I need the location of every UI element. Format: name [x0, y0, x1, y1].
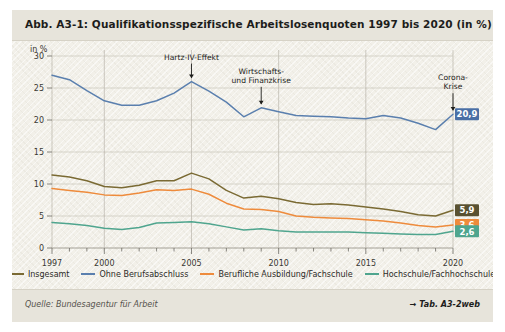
end-value-text: 20,9 [457, 109, 478, 119]
legend-label: Ohne Berufsabschluss [99, 270, 188, 279]
legend-swatch-icon [12, 273, 24, 275]
annotation-label: und Finanzkrise [232, 76, 292, 85]
legend-item-berufliche-ausbildung-fachschule[interactable]: Berufliche Ausbildung/Fachschule [200, 270, 352, 279]
end-value-label: 2,6 [455, 225, 479, 237]
legend-item-insgesamt[interactable]: Insgesamt [12, 270, 69, 279]
annotation-arrow-icon [451, 107, 456, 111]
figure-panel: Abb. A3-1: Qualifikationsspezifische Arb… [12, 10, 493, 322]
annotation-label: Corona- [438, 73, 468, 82]
source-note: Quelle: Bundesagentur für Arbeit [25, 300, 158, 309]
end-value-label: 5,9 [455, 204, 479, 216]
end-value-text: 2,6 [459, 227, 474, 237]
y-axis-unit-label: in % [30, 45, 48, 54]
chart-annotations: Hartz-IV-EffektWirtschafts-und Finanzkri… [164, 53, 468, 111]
end-value-label: 20,9 [455, 108, 479, 120]
series-line-berufliche-ausbildung-fachschule [52, 188, 453, 226]
y-tick-label: 15 [34, 148, 44, 157]
end-value-text: 5,9 [459, 205, 474, 215]
data-series-lines [52, 75, 453, 234]
legend-label: Hochschule/Fachhochschule [383, 270, 493, 279]
annotation-arrow-icon [189, 74, 194, 78]
annotation-label: Krise [444, 82, 463, 91]
chart-legend: InsgesamtOhne BerufsabschlussBerufliche … [12, 266, 493, 282]
legend-swatch-icon [81, 273, 95, 275]
table-reference-link[interactable]: → Tab. A3-2web [410, 300, 480, 309]
annotation-label: Wirtschafts- [239, 67, 285, 76]
legend-swatch-icon [200, 273, 214, 275]
page-title: Abb. A3-1: Qualifikationsspezifische Arb… [25, 18, 492, 30]
legend-item-hochschule-fachhochschule[interactable]: Hochschule/Fachhochschule [365, 270, 493, 279]
figure-footer: Quelle: Bundesagentur für Arbeit → Tab. … [12, 289, 493, 322]
end-value-labels: 20,95,93,62,6 [455, 108, 479, 237]
legend-label: Berufliche Ausbildung/Fachschule [218, 270, 352, 279]
y-tick-label: 25 [34, 84, 44, 93]
annotation-arrow-icon [259, 101, 264, 105]
x-axis-ticks: 199720002005201020152020 [42, 248, 463, 268]
legend-swatch-icon [365, 273, 379, 275]
y-tick-label: 5 [39, 212, 44, 221]
legend-label: Insgesamt [28, 270, 70, 279]
line-chart: 051015202530 199720002005201020152020 in… [12, 40, 493, 272]
y-tick-label: 20 [34, 116, 44, 125]
chart-plot-area: 051015202530 199720002005201020152020 in… [12, 40, 493, 272]
series-line-hochschule-fachhochschule [52, 222, 453, 235]
figure-title-bar: Abb. A3-1: Qualifikationsspezifische Arb… [12, 10, 493, 41]
y-tick-label: 10 [34, 180, 44, 189]
annotation-label: Hartz-IV-Effekt [164, 53, 219, 62]
y-tick-label: 0 [39, 244, 44, 253]
legend-item-ohne-berufsabschluss[interactable]: Ohne Berufsabschluss [81, 270, 188, 279]
y-axis-ticks: 051015202530 [34, 52, 52, 253]
